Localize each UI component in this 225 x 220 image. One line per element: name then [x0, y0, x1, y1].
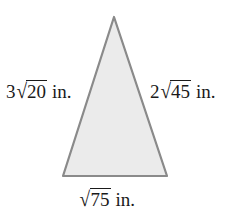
geometry-figure: 3√20in. 2√45in. √75in. [0, 0, 225, 220]
left-radicand: 20 [26, 80, 47, 101]
triangle-shape [0, 0, 225, 220]
left-unit: in. [52, 82, 72, 101]
left-coefficient: 3 [6, 82, 16, 101]
radical-sign-icon: √ [79, 189, 90, 210]
left-radical: √20 [16, 80, 48, 102]
radical-sign-icon: √ [160, 81, 171, 102]
radical-sign-icon: √ [16, 81, 27, 102]
label-right-side: 2√45in. [150, 80, 216, 102]
right-radicand: 45 [170, 80, 191, 101]
bottom-radical: √75 [79, 188, 111, 210]
bottom-radicand: 75 [90, 188, 111, 209]
right-radical: √45 [160, 80, 192, 102]
bottom-unit: in. [116, 190, 136, 209]
right-coefficient: 2 [150, 82, 160, 101]
right-unit: in. [196, 82, 216, 101]
label-bottom-side: √75in. [79, 188, 135, 210]
label-left-side: 3√20in. [6, 80, 72, 102]
